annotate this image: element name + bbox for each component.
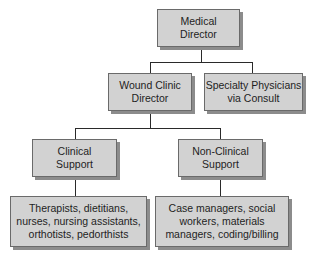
node-label: Wound Clinic Director [119,79,181,105]
connector-wound-down [150,111,151,128]
node-non-clinical-staff: Case managers, social workers, materials… [155,196,289,247]
connector-level1-bar [150,62,253,63]
node-specialty-physicians: Specialty Physicians via Consult [204,73,303,111]
node-non-clinical-support: Non-Clinical Support [178,139,263,177]
connector-to-wound-clinic [150,62,151,73]
connector-level2-bar [75,128,220,129]
connector-clinical-down [75,177,76,196]
node-label: Medical Director [180,15,217,41]
connector-nonclinical-down [220,177,221,196]
node-label: Non-Clinical Support [192,145,249,171]
node-label: Therapists, dietitians, nurses, nursing … [16,202,140,241]
connector-to-clinical [75,128,76,139]
node-clinical-support: Clinical Support [32,139,117,177]
node-medical-director: Medical Director [157,9,240,47]
node-label: Case managers, social workers, materials… [165,202,278,241]
connector-medical-down [201,47,202,62]
node-label: Clinical Support [56,145,93,171]
node-clinical-staff: Therapists, dietitians, nurses, nursing … [10,196,147,247]
connector-to-specialty [252,62,253,73]
connector-to-nonclinical [220,128,221,139]
node-wound-clinic-director: Wound Clinic Director [108,73,192,111]
node-label: Specialty Physicians via Consult [206,79,302,105]
